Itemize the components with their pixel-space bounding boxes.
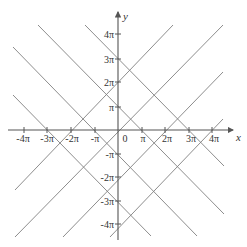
x-tick-label: π [140, 133, 145, 144]
y-axis-label: y [122, 10, 128, 22]
y-tick-label: π [109, 102, 114, 113]
diagonal-line [63, 72, 223, 237]
x-tick-label: 4π [209, 133, 219, 144]
diagonal-line [15, 25, 173, 190]
plot-area: -4π -3π -2π -π 0 π 2π 3π 4π 4π 3π 2π π -… [0, 0, 247, 247]
y-tick-label: 4π [104, 29, 114, 40]
y-tick-label: 3π [104, 54, 114, 65]
y-tick-label: -2π [101, 172, 114, 183]
y-tick-label: -π [106, 149, 114, 160]
x-tick-label: -4π [16, 133, 29, 144]
x-tick-label: -π [91, 133, 99, 144]
line-family-ascending [15, 25, 223, 237]
y-tick-label: -4π [101, 219, 114, 230]
x-tick-label: 3π [186, 133, 196, 144]
x-tick-label: -2π [65, 133, 78, 144]
diagonal-line [13, 95, 151, 236]
diagonal-line [15, 25, 223, 237]
y-tick-label: 2π [104, 77, 114, 88]
x-axis-label: x [235, 131, 241, 143]
y-tick-label: -3π [101, 196, 114, 207]
x-tick-label: -3π [40, 133, 53, 144]
chart: -4π -3π -2π -π 0 π 2π 3π 4π 4π 3π 2π π -… [0, 0, 247, 247]
x-tick-label: 2π [162, 133, 172, 144]
origin-label: 0 [123, 133, 128, 144]
